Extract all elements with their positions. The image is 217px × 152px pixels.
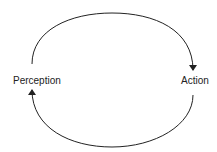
action-label: Action: [181, 75, 209, 86]
perception-label: Perception: [13, 75, 61, 86]
bottom-arc-arrow: [32, 90, 193, 147]
top-arc-arrow: [32, 13, 193, 70]
perception-action-cycle-diagram: Perception Action: [0, 0, 217, 152]
